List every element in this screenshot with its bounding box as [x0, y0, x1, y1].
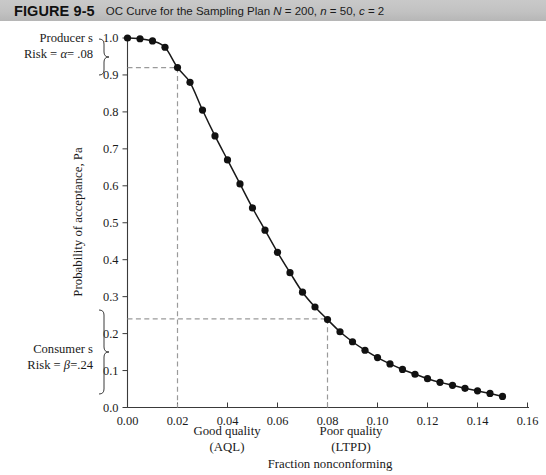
data-point	[311, 303, 318, 310]
data-point	[261, 227, 268, 234]
data-point	[336, 328, 343, 335]
x-tick-label: 0.00	[117, 414, 139, 428]
producers-risk-label-line2: Risk = α= .08	[24, 47, 93, 61]
producers-risk-prefix: Risk =	[24, 47, 61, 61]
data-point	[374, 354, 381, 361]
y-tick-label: 0.7	[103, 142, 119, 156]
consumers-risk-prefix: Risk =	[27, 358, 64, 372]
y-axis-title: Probability of acceptance, Pa	[71, 147, 85, 297]
data-point	[474, 387, 481, 394]
data-point	[274, 249, 281, 256]
producers-risk-label-line1: Producer s	[39, 31, 93, 45]
oc-curve-line	[128, 38, 503, 396]
producers-risk-value: = .08	[67, 47, 93, 61]
oc-curve-markers	[124, 34, 506, 400]
y-tick-label: 1.0	[103, 31, 119, 45]
data-point	[436, 379, 443, 386]
data-point	[136, 35, 143, 42]
x-axis-title: Fraction nonconforming	[268, 457, 393, 471]
y-tick-label: 0.8	[103, 105, 119, 119]
data-point	[249, 204, 256, 211]
x-tick-label: 0.02	[167, 414, 189, 428]
data-point	[286, 269, 293, 276]
x-tick-label: 0.12	[417, 414, 439, 428]
y-tick-label: 0.3	[103, 290, 119, 304]
consumers-risk-value: =.24	[70, 358, 94, 372]
data-point	[211, 132, 218, 139]
data-point	[199, 106, 206, 113]
figure-title-var-N: N	[273, 5, 281, 17]
figure-title-N-value: = 200,	[282, 5, 321, 17]
y-tick-label: 0.4	[103, 253, 119, 267]
data-point	[424, 375, 431, 382]
data-point	[149, 37, 156, 44]
x-tick-label: 0.16	[517, 414, 539, 428]
data-point	[224, 156, 231, 163]
consumers-risk-label-line1: Consumer s	[33, 342, 93, 356]
x-tick-label: 0.14	[467, 414, 489, 428]
y-axis-ticks: 0.00.10.20.30.40.50.60.70.80.91.0	[103, 31, 128, 415]
data-point	[174, 64, 181, 71]
y-tick-label: 0.2	[103, 327, 119, 341]
figure-title-prefix: OC Curve for the Sampling Plan	[106, 5, 273, 17]
data-point	[124, 34, 131, 41]
data-point	[399, 366, 406, 373]
x-tick-label: 0.06	[267, 414, 289, 428]
data-point	[186, 79, 193, 86]
figure-header: FIGURE 9-5 OC Curve for the Sampling Pla…	[0, 0, 546, 21]
risk-guide-lines	[128, 68, 328, 408]
y-tick-label: 0.5	[103, 216, 119, 230]
oc-curve-chart: 0.00.10.20.30.40.50.60.70.80.91.0 0.000.…	[0, 21, 546, 475]
data-point	[411, 371, 418, 378]
data-point	[161, 44, 168, 51]
data-point	[361, 347, 368, 354]
data-point	[449, 382, 456, 389]
data-point	[299, 289, 306, 296]
data-point	[486, 390, 493, 397]
ltpd-label-line2: (LTPD)	[331, 440, 370, 454]
data-point	[349, 338, 356, 345]
data-point	[324, 316, 331, 323]
consumers-risk-label-line2: Risk = β=.24	[27, 358, 93, 372]
data-point	[236, 180, 243, 187]
aql-label-line1: Good quality	[193, 424, 261, 438]
y-tick-label: 0.9	[103, 68, 119, 82]
data-point	[461, 385, 468, 392]
aql-label-line2: (AQL)	[210, 440, 245, 454]
y-tick-label: 0.1	[103, 364, 119, 378]
figure-number: FIGURE 9-5	[14, 3, 95, 19]
figure-title: OC Curve for the Sampling Plan N = 200, …	[106, 5, 384, 17]
data-point	[386, 360, 393, 367]
y-tick-label: 0.6	[103, 179, 119, 193]
consumers-risk-brace	[99, 310, 109, 394]
figure-title-c-value: = 2	[365, 5, 385, 17]
data-point	[499, 393, 506, 400]
ltpd-label-line1: Poor quality	[320, 424, 384, 438]
figure-title-n-value: = 50,	[327, 5, 359, 17]
